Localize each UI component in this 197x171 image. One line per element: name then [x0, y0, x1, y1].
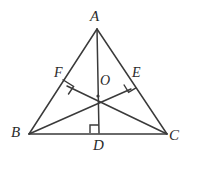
vertex-label-C: C [169, 128, 179, 143]
vertex-label-E: E [132, 66, 141, 80]
right-angle-at-D [90, 125, 99, 133]
vertex-label-F: F [54, 66, 63, 80]
vertex-label-O: O [100, 74, 110, 88]
vertex-label-A: A [90, 9, 99, 24]
orthocenter-point [96, 94, 99, 97]
vertex-label-B: B [11, 125, 20, 140]
geometry-figure: A B C D E F O [0, 0, 197, 171]
altitude-AD [97, 29, 99, 133]
vertex-label-D: D [93, 138, 104, 153]
